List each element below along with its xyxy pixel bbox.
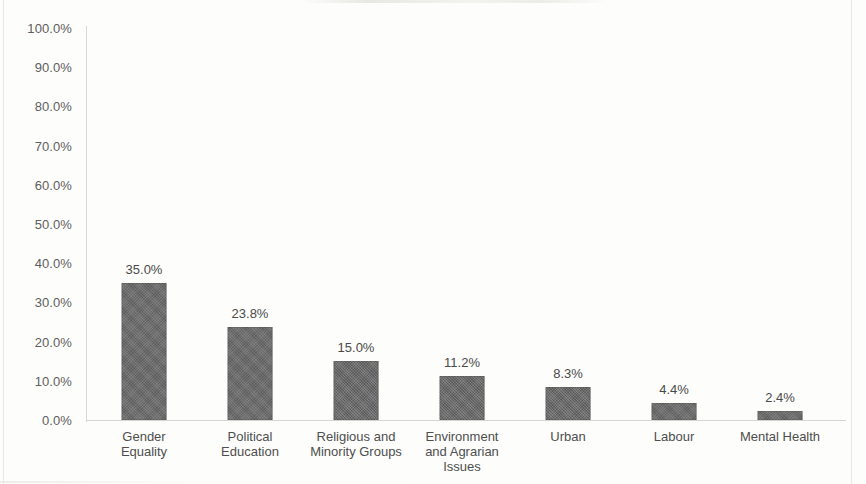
x-axis-category-label: Urban bbox=[515, 429, 621, 444]
bar-column: 15.0% bbox=[303, 28, 409, 420]
y-axis-tick-label: 30.0% bbox=[2, 296, 72, 309]
x-axis-category-label: Labour bbox=[621, 429, 727, 444]
bar[interactable] bbox=[758, 411, 803, 420]
y-axis-tick-label: 10.0% bbox=[2, 375, 72, 388]
category-label-line: Minority Groups bbox=[303, 444, 409, 459]
x-axis-category-label: GenderEquality bbox=[91, 429, 197, 459]
bar[interactable] bbox=[440, 376, 485, 420]
y-axis-tick-label: 40.0% bbox=[2, 257, 72, 270]
x-axis-category-label: Environmentand AgrarianIssues bbox=[409, 429, 515, 474]
category-label-line: Gender bbox=[91, 429, 197, 444]
y-axis-tick-label: 20.0% bbox=[2, 336, 72, 349]
category-label-line: and Agrarian bbox=[409, 444, 515, 459]
y-axis-tick-label: 60.0% bbox=[2, 179, 72, 192]
bar-column: 4.4% bbox=[621, 28, 727, 420]
bar-column: 2.4% bbox=[727, 28, 833, 420]
category-label-line: Education bbox=[197, 444, 303, 459]
y-axis-line bbox=[86, 26, 87, 422]
bar-value-label: 2.4% bbox=[727, 391, 833, 404]
bar[interactable] bbox=[546, 387, 591, 420]
bar-chart-plot-area: 100.0%90.0%80.0%70.0%60.0%50.0%40.0%30.0… bbox=[0, 0, 866, 484]
bar-value-label: 8.3% bbox=[515, 367, 621, 380]
bar[interactable] bbox=[334, 361, 379, 420]
y-axis-tick-label: 0.0% bbox=[2, 414, 72, 427]
bar-value-label: 23.8% bbox=[197, 307, 303, 320]
category-label-line: Religious and bbox=[303, 429, 409, 444]
category-label-line: Equality bbox=[91, 444, 197, 459]
category-label-line: Political bbox=[197, 429, 303, 444]
chart-page: 100.0%90.0%80.0%70.0%60.0%50.0%40.0%30.0… bbox=[0, 0, 866, 484]
bar-column: 11.2% bbox=[409, 28, 515, 420]
bar-value-label: 35.0% bbox=[91, 263, 197, 276]
bar-column: 35.0% bbox=[91, 28, 197, 420]
x-axis-category-label: Mental Health bbox=[727, 429, 833, 444]
y-axis-tick-label: 50.0% bbox=[2, 218, 72, 231]
y-axis-tick-label: 70.0% bbox=[2, 140, 72, 153]
bar-value-label: 15.0% bbox=[303, 341, 409, 354]
bar[interactable] bbox=[122, 283, 167, 420]
category-label-line: Urban bbox=[515, 429, 621, 444]
y-axis-tick-label: 90.0% bbox=[2, 61, 72, 74]
bar-value-label: 4.4% bbox=[621, 383, 727, 396]
x-axis-category-label: PoliticalEducation bbox=[197, 429, 303, 459]
bar-value-label: 11.2% bbox=[409, 356, 515, 369]
category-label-line: Mental Health bbox=[727, 429, 833, 444]
category-label-line: Labour bbox=[621, 429, 727, 444]
y-axis-tick-label: 100.0% bbox=[2, 22, 72, 35]
x-axis-category-label: Religious andMinority Groups bbox=[303, 429, 409, 459]
bar-column: 8.3% bbox=[515, 28, 621, 420]
y-axis-tick-label: 80.0% bbox=[2, 100, 72, 113]
x-axis-line bbox=[86, 420, 846, 421]
bar[interactable] bbox=[228, 327, 273, 420]
category-label-line: Environment bbox=[409, 429, 515, 444]
bar-column: 23.8% bbox=[197, 28, 303, 420]
category-label-line: Issues bbox=[409, 459, 515, 474]
bar[interactable] bbox=[652, 403, 697, 420]
